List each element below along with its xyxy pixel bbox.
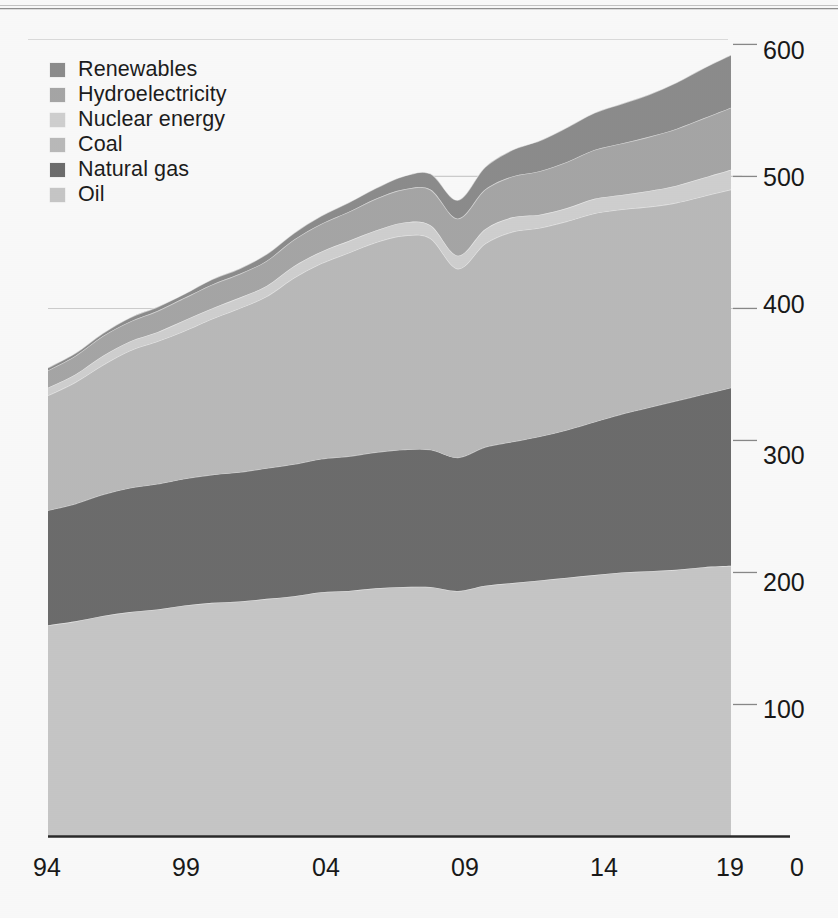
x-tick-label-19: 19 bbox=[716, 855, 744, 880]
chart-legend: RenewablesHydroelectricityNuclear energy… bbox=[50, 57, 227, 207]
legend-swatch-icon bbox=[50, 88, 65, 102]
legend-swatch-icon bbox=[50, 63, 65, 77]
legend-item[interactable]: Coal bbox=[50, 132, 227, 157]
legend-item[interactable]: Renewables bbox=[50, 57, 227, 82]
y-tick-label-400: 400 bbox=[763, 292, 805, 317]
legend-item-label: Natural gas bbox=[78, 159, 189, 181]
y-tick-label-300: 300 bbox=[763, 443, 805, 468]
x-tick-label-99: 99 bbox=[172, 855, 200, 880]
legend-swatch-icon bbox=[50, 163, 65, 177]
x-axis-origin-label: 0 bbox=[790, 855, 804, 880]
legend-item-label: Oil bbox=[78, 184, 105, 206]
legend-item-label: Nuclear energy bbox=[78, 109, 225, 131]
x-tick-label-14: 14 bbox=[590, 855, 618, 880]
legend-item-label: Coal bbox=[78, 134, 123, 156]
y-tick-label-500: 500 bbox=[763, 165, 805, 190]
legend-swatch-icon bbox=[50, 113, 65, 127]
legend-swatch-icon bbox=[50, 138, 65, 152]
x-tick-label-04: 04 bbox=[312, 855, 340, 880]
legend-item[interactable]: Natural gas bbox=[50, 157, 227, 182]
legend-swatch-icon bbox=[50, 188, 65, 202]
legend-item[interactable]: Nuclear energy bbox=[50, 107, 227, 132]
y-tick-label-200: 200 bbox=[763, 570, 805, 595]
axis-ticks bbox=[733, 44, 757, 704]
y-tick-label-600: 600 bbox=[763, 38, 805, 63]
x-tick-label-09: 09 bbox=[451, 855, 479, 880]
legend-item-label: Renewables bbox=[78, 59, 197, 81]
x-tick-label-94: 94 bbox=[33, 855, 61, 880]
legend-item-label: Hydroelectricity bbox=[78, 84, 227, 106]
y-tick-label-100: 100 bbox=[763, 697, 805, 722]
legend-item[interactable]: Oil bbox=[50, 182, 227, 207]
legend-item[interactable]: Hydroelectricity bbox=[50, 82, 227, 107]
